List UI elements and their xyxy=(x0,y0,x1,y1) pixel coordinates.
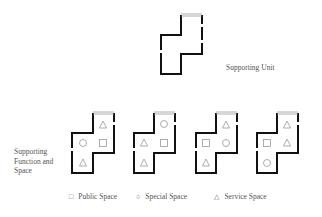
legend-label: Special Space xyxy=(145,192,187,201)
square-icon: □ xyxy=(69,193,73,201)
diagram-canvas xyxy=(0,0,322,217)
triangle-icon: △ xyxy=(214,193,219,201)
supporting-function-label: Supporting Function and Space xyxy=(14,147,64,176)
legend-public-space: □ Public Space xyxy=(69,192,117,201)
service-space-icon xyxy=(100,121,107,128)
public-space-icon xyxy=(161,140,168,147)
function-variant-2 xyxy=(134,112,175,173)
function-variant-3 xyxy=(196,112,237,173)
legend-special-space: ○ Special Space xyxy=(136,192,187,201)
service-space-icon xyxy=(141,159,148,166)
public-space-icon xyxy=(203,140,210,147)
special-space-icon xyxy=(80,140,87,147)
special-space-icon xyxy=(223,140,230,147)
supporting-unit-label: Supporting Unit xyxy=(226,63,275,73)
service-space-icon xyxy=(141,139,148,146)
special-space-icon xyxy=(161,121,168,128)
legend-service-space: △ Service Space xyxy=(214,192,267,201)
public-space-icon xyxy=(100,140,107,147)
service-space-icon xyxy=(203,159,210,166)
special-space-icon xyxy=(264,160,271,167)
function-variant-4 xyxy=(257,112,298,173)
circle-icon: ○ xyxy=(136,193,140,201)
supporting-unit-plan xyxy=(161,14,202,74)
legend-label: Service Space xyxy=(224,192,266,201)
service-space-icon xyxy=(284,139,291,146)
service-space-icon xyxy=(223,121,230,128)
service-space-icon xyxy=(80,159,87,166)
function-variant-1 xyxy=(72,112,114,173)
public-space-icon xyxy=(264,140,271,147)
legend-label: Public Space xyxy=(78,192,117,201)
service-space-icon xyxy=(284,121,291,128)
